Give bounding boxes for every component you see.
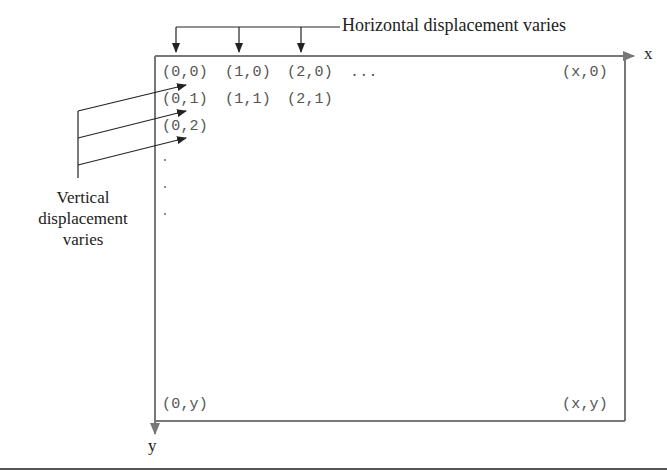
coord-1-1: (1,1) <box>225 91 271 108</box>
vertical-ellipsis-dot <box>164 213 166 215</box>
coord-0-y: (0,y) <box>162 396 208 413</box>
coordinate-grid-diagram: Horizontal displacement varies x y (0,0)… <box>0 0 667 472</box>
vertical-ellipsis-dot <box>164 159 166 161</box>
coord-0-0: (0,0) <box>162 64 208 81</box>
coord-0-1: (0,1) <box>162 91 208 108</box>
vertical-displacement-label: Vertical displacement varies <box>28 187 138 250</box>
vertical-label-line-1: Vertical <box>28 187 138 208</box>
vertical-label-line-3: varies <box>28 229 138 250</box>
y-axis-label: y <box>148 436 157 456</box>
vertical-ellipsis-dot <box>164 186 166 188</box>
vertical-label-line-2: displacement <box>28 208 138 229</box>
coord-1-0: (1,0) <box>225 64 271 81</box>
coord-0-2: (0,2) <box>162 118 208 135</box>
ellipsis-row0: ... <box>350 64 378 81</box>
coord-x-0: (x,0) <box>562 64 608 81</box>
horizontal-displacement-label: Horizontal displacement varies <box>342 15 566 36</box>
coord-2-0: (2,0) <box>287 64 333 81</box>
arrow-row2 <box>78 138 186 165</box>
coord-2-1: (2,1) <box>287 91 333 108</box>
coord-x-y: (x,y) <box>562 396 608 413</box>
x-axis-label: x <box>644 44 653 64</box>
